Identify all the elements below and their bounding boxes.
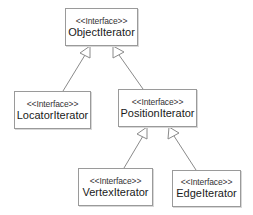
generalization-arrowhead-icon <box>168 127 179 139</box>
edge-edge-to-position <box>168 127 196 170</box>
interface-vertex-iterator[interactable]: <<Interface>> VertexIterator <box>78 168 153 206</box>
edge-vertex-to-position <box>124 127 147 168</box>
edge-locator-to-object <box>63 46 90 91</box>
interface-locator-iterator[interactable]: <<Interface>> LocatorIterator <box>14 91 91 129</box>
interface-name: EdgeIterator <box>176 187 237 200</box>
interface-name: ObjectIterator <box>68 26 135 39</box>
uml-diagram: <<Interface>> ObjectIterator <<Interface… <box>0 0 253 215</box>
stereotype-label: <<Interface>> <box>132 97 184 107</box>
interface-position-iterator[interactable]: <<Interface>> PositionIterator <box>118 89 197 127</box>
generalization-arrowhead-icon <box>113 46 124 58</box>
interface-name: VertexIterator <box>82 186 148 199</box>
generalization-arrowhead-icon <box>80 46 90 58</box>
stereotype-label: <<Interface>> <box>27 99 79 109</box>
stereotype-label: <<Interface>> <box>76 16 128 26</box>
interface-name: PositionIterator <box>121 107 195 120</box>
interface-object-iterator[interactable]: <<Interface>> ObjectIterator <box>65 8 138 46</box>
interface-name: LocatorIterator <box>17 109 89 122</box>
edge-position-to-object <box>113 46 143 89</box>
stereotype-label: <<Interface>> <box>181 177 233 187</box>
interface-edge-iterator[interactable]: <<Interface>> EdgeIterator <box>172 170 241 207</box>
stereotype-label: <<Interface>> <box>90 176 142 186</box>
